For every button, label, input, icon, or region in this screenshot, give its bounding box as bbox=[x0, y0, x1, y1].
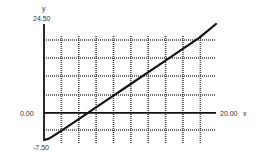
y-axis-label: y bbox=[42, 5, 46, 12]
y-tick-bottom: -7.50 bbox=[33, 144, 49, 151]
y-tick-top: 24.50 bbox=[33, 15, 51, 22]
data-line bbox=[44, 24, 216, 140]
axes bbox=[44, 24, 216, 140]
x-tick-right: 20.00 bbox=[220, 110, 238, 117]
y-tick-zero: 0.00 bbox=[20, 110, 34, 117]
x-axis-label: x bbox=[243, 110, 247, 117]
chart-canvas bbox=[0, 0, 263, 161]
grid-lines bbox=[44, 36, 216, 144]
